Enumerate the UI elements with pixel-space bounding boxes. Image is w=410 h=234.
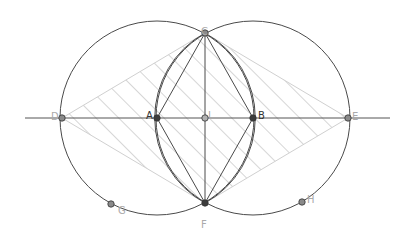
point-A[interactable] — [154, 115, 160, 121]
geometry-canvas[interactable]: ABLCFDEGH — [0, 0, 410, 234]
label-H: H — [307, 194, 315, 205]
label-L: L — [208, 110, 214, 121]
point-F[interactable] — [202, 200, 208, 206]
point-D[interactable] — [59, 115, 65, 121]
label-B: B — [258, 110, 265, 121]
label-D: D — [51, 111, 59, 122]
label-E: E — [352, 111, 358, 122]
label-C: C — [201, 26, 208, 37]
point-H[interactable] — [299, 199, 305, 205]
label-G: G — [118, 205, 126, 216]
label-A: A — [146, 110, 153, 121]
point-B[interactable] — [250, 115, 256, 121]
point-E[interactable] — [345, 115, 351, 121]
label-F: F — [201, 219, 207, 230]
point-G[interactable] — [108, 201, 114, 207]
